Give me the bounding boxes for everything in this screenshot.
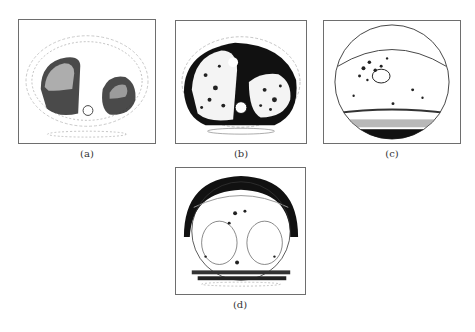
subfigure-c-caption: (c) <box>372 148 412 159</box>
subfigure-d-caption: (d) <box>220 299 260 310</box>
subfigure-c-image <box>323 20 461 144</box>
subfigure-b-image <box>175 20 307 144</box>
ct-scan-a <box>19 20 155 143</box>
subfigure-a-caption: (a) <box>67 148 107 159</box>
subfigure-b-caption: (b) <box>221 148 261 159</box>
subfigure-d-image <box>175 167 306 295</box>
ct-scan-d <box>176 168 305 294</box>
ct-scan-c <box>324 21 460 143</box>
ct-scan-b <box>176 21 306 143</box>
subfigure-a-image <box>18 19 156 144</box>
